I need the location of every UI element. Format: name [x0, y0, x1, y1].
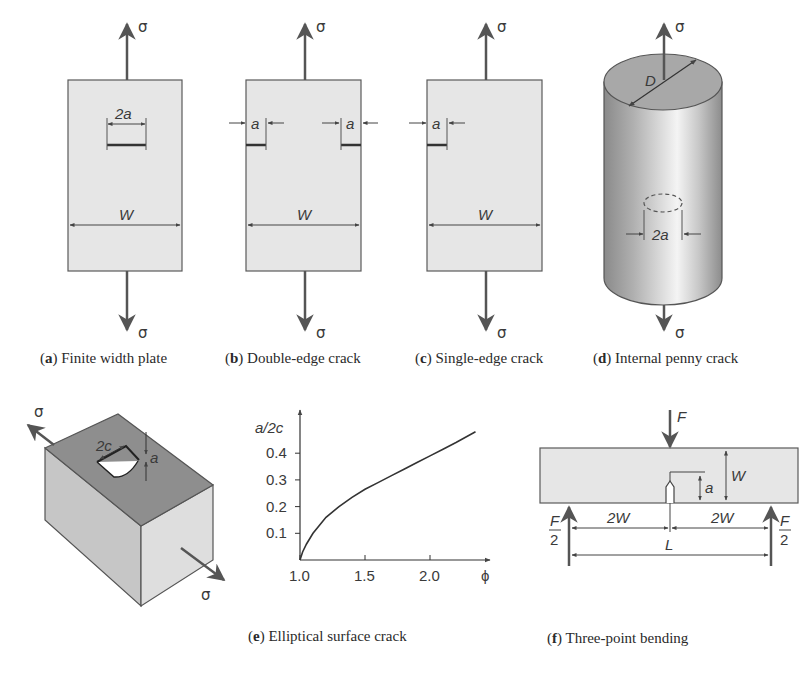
stress-label-bottom: σ — [316, 324, 326, 342]
stress-label-top: σ — [138, 18, 148, 36]
crack-label-right: a — [346, 115, 354, 132]
panel-e-elliptical-surface-crack: 2c a σ σ — [28, 403, 224, 606]
height-label: W — [731, 467, 747, 484]
stress-label-top: σ — [34, 403, 44, 421]
caption-b: (b) Double-edge crack — [225, 350, 361, 367]
y-tick-label: 0.2 — [266, 498, 287, 515]
panel-f-three-point-bending: a W F F 2 F 2 2W 2W L — [540, 408, 798, 566]
support-left-numerator: F — [550, 512, 560, 529]
x-tick-label: 2.0 — [419, 567, 440, 584]
caption-letter: c — [420, 350, 427, 366]
chart-a-over-2c-vs-phi: 0.10.20.30.4 1.01.52.0 a/2c ϕ — [255, 410, 490, 584]
caption-a: (a) Finite width plate — [40, 350, 167, 367]
stress-label-top: σ — [675, 18, 685, 36]
crack-label-left: a — [251, 115, 259, 132]
caption-text: Three-point bending — [565, 630, 688, 646]
cylinder-body — [604, 82, 722, 305]
panel-b-double-edge-crack: σ a a W σ — [229, 18, 378, 342]
width-label: W — [297, 206, 313, 223]
half-span-right-label: 2W — [710, 509, 735, 526]
half-span-left-label: 2W — [606, 509, 631, 526]
fracture-geometries-figure: σ 2a W σ σ a a W σ — [0, 0, 800, 675]
width-label: W — [478, 206, 494, 223]
panel-a-finite-width-plate: σ 2a W σ — [68, 18, 182, 342]
stress-arrow-left-icon — [28, 425, 54, 445]
caption-text: Finite width plate — [61, 350, 167, 366]
crack-label: 2a — [651, 226, 669, 243]
notch-crack — [666, 481, 674, 503]
stress-label-bottom: σ — [138, 324, 148, 342]
caption-letter: a — [45, 350, 53, 366]
caption-letter: f — [552, 630, 557, 646]
stress-label-top: σ — [316, 18, 326, 36]
panel-c-single-edge-crack: σ a W σ — [409, 18, 542, 342]
stress-label-bottom: σ — [497, 324, 507, 342]
y-axis-label: a/2c — [255, 419, 284, 436]
support-left-denominator: 2 — [550, 531, 558, 548]
plate — [246, 80, 361, 271]
caption-text: Single-edge crack — [435, 350, 543, 366]
caption-text: Elliptical surface crack — [268, 628, 406, 644]
caption-text: Internal penny crack — [615, 350, 738, 366]
x-tick-label: 1.0 — [289, 567, 310, 584]
y-tick-label: 0.4 — [266, 444, 287, 461]
stress-label-top: σ — [497, 18, 507, 36]
x-axis-ticks: 1.01.52.0 — [289, 555, 440, 584]
support-right-numerator: F — [780, 512, 790, 529]
stress-label-bottom: σ — [675, 324, 685, 342]
span-label: L — [665, 536, 673, 553]
y-tick-label: 0.1 — [266, 524, 287, 541]
stress-label-bottom: σ — [201, 586, 211, 604]
crack-label: a — [705, 479, 713, 496]
caption-letter: e — [253, 628, 260, 644]
crack-depth-label: a — [150, 449, 158, 466]
width-label: W — [119, 206, 135, 223]
crack-label: 2a — [114, 105, 132, 122]
data-curve — [300, 432, 476, 560]
support-right-denominator: 2 — [780, 531, 788, 548]
load-label: F — [677, 408, 687, 425]
x-tick-label: 1.5 — [354, 567, 375, 584]
panel-d-internal-penny-crack: D σ 2a σ — [604, 18, 722, 342]
caption-d: (d) Internal penny crack — [593, 350, 738, 367]
caption-letter: b — [230, 350, 238, 366]
caption-letter: d — [598, 350, 606, 366]
y-tick-label: 0.3 — [266, 471, 287, 488]
caption-f: (f) Three-point bending — [547, 630, 688, 647]
x-axis-label: ϕ — [481, 567, 489, 584]
caption-text: Double-edge crack — [247, 350, 361, 366]
caption-e: (e) Elliptical surface crack — [248, 628, 407, 645]
diameter-label: D — [645, 72, 656, 89]
crack-label: a — [432, 115, 440, 132]
crack-length-label: 2c — [95, 437, 112, 454]
caption-c: (c) Single-edge crack — [415, 350, 543, 367]
y-axis-ticks: 0.10.20.30.4 — [266, 444, 300, 541]
plate — [427, 80, 542, 271]
